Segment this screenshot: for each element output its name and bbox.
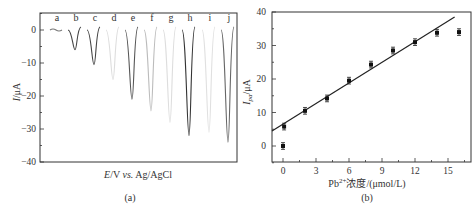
y-tick-label: −20 xyxy=(21,91,36,101)
fit-line xyxy=(272,17,455,131)
y-tick-label: −30 xyxy=(21,124,36,134)
y-tick-label: −40 xyxy=(21,157,36,167)
figure: 0−10−20−30−40 abcdefghij I/μA E/V vs. Ag… xyxy=(0,0,476,210)
x-axis-label-a: E/V vs. Ag/AgCl xyxy=(103,169,172,180)
voltammogram-panel: 0−10−20−30−40 abcdefghij I/μA E/V vs. Ag… xyxy=(11,12,237,204)
data-point xyxy=(391,47,395,54)
data-point xyxy=(303,107,307,114)
y-tick-label: 30 xyxy=(257,41,267,51)
x-tick-label: 12 xyxy=(410,166,420,176)
y-axis-label-a: I/μA xyxy=(11,82,22,102)
data-point xyxy=(413,39,417,46)
data-point xyxy=(369,61,373,68)
caption-b: (b) xyxy=(361,192,373,204)
x-axis-label-b: Pb2+浓度/(μmol/L) xyxy=(328,177,405,190)
curve-a xyxy=(50,29,62,31)
y-tick-label: −10 xyxy=(21,58,36,68)
y-tick-label: 0 xyxy=(31,25,36,35)
curve-label-j: j xyxy=(227,12,231,23)
curve-c xyxy=(87,27,100,65)
y-tick-label: 20 xyxy=(257,74,267,84)
data-points xyxy=(281,29,461,150)
curve-label-h: h xyxy=(188,12,193,23)
curve-label-d: d xyxy=(112,12,117,23)
y-axis-ticks-b: 010203040 xyxy=(257,7,277,163)
curve-i xyxy=(202,27,215,132)
curve-h xyxy=(182,27,195,136)
x-tick-label: 0 xyxy=(281,166,286,176)
data-point xyxy=(457,29,461,36)
curve-b xyxy=(68,27,81,50)
data-point xyxy=(281,143,285,150)
curve-d xyxy=(106,27,119,80)
curve-label-b: b xyxy=(74,12,79,23)
curve-label-i: i xyxy=(209,12,212,23)
y-tick-label: 0 xyxy=(261,141,266,151)
curve-label-e: e xyxy=(131,12,136,23)
curve-f xyxy=(144,27,157,111)
curve-e xyxy=(125,27,138,99)
y-tick-label: 40 xyxy=(257,7,267,17)
data-point xyxy=(435,29,439,36)
calibration-panel: 010203040 03691215 Ipa/μA Pb2+浓度/(μmol/L… xyxy=(241,7,471,204)
y-axis-ticks-a: 0−10−20−30−40 xyxy=(21,14,44,168)
curve-j xyxy=(221,27,234,142)
x-tick-label: 9 xyxy=(380,166,385,176)
x-axis-ticks-b: 03691215 xyxy=(281,158,465,176)
x-tick-label: 15 xyxy=(443,166,453,176)
curve-label-c: c xyxy=(93,12,98,23)
curve-label-f: f xyxy=(150,12,154,23)
plot-frame-b xyxy=(272,12,471,162)
curve-labels: abcdefghij xyxy=(55,12,231,23)
data-point xyxy=(347,77,351,84)
curve-label-g: g xyxy=(169,12,174,23)
x-tick-label: 6 xyxy=(347,166,352,176)
curves xyxy=(50,27,234,142)
curve-label-a: a xyxy=(55,12,60,23)
caption-a: (a) xyxy=(124,192,135,204)
plot-frame-a xyxy=(40,13,237,162)
curve-g xyxy=(163,27,176,122)
y-tick-label: 10 xyxy=(257,108,267,118)
y-axis-label-b: Ipa/μA xyxy=(241,78,254,105)
linear-fit xyxy=(272,17,455,131)
x-tick-label: 3 xyxy=(314,166,319,176)
